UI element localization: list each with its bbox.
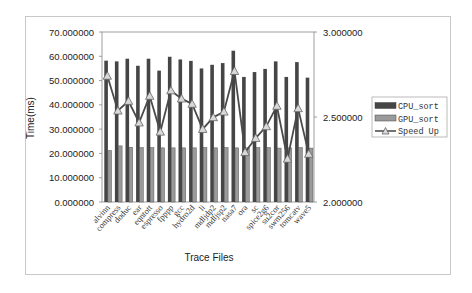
gpu-sort-bar [119, 146, 123, 202]
cpu-sort-bar [179, 59, 183, 202]
y2-tick-label: 2.000000 [323, 197, 363, 208]
legend: CPU_sortGPU_sortSpeed Up [372, 97, 447, 137]
gpu-sort-bar [278, 148, 282, 202]
plot-border [102, 32, 314, 202]
cpu-sort-bar [200, 68, 204, 202]
cpu-sort-bar [126, 59, 130, 202]
legend-swatch-icon [375, 115, 396, 121]
cpu-sort-bar [115, 61, 119, 202]
y-tick-label: 60.000000 [49, 51, 94, 62]
legend-label: Speed Up [398, 127, 439, 137]
cpu-sort-bar [295, 62, 299, 202]
gpu-sort-bar [140, 148, 144, 202]
y-tick-label: 40.000000 [49, 99, 94, 110]
x-axis-category-labels: alvinncompressdoduceareqntottespressofpp… [90, 202, 313, 233]
gpu-sort-bar [108, 151, 112, 202]
x-axis-title: Trace Files [184, 252, 233, 263]
legend-label: GPU_sort [398, 115, 439, 125]
right-y-axis: 2.0000002.5000003.000000 [314, 27, 363, 208]
y-tick-label: 50.000000 [49, 75, 94, 86]
cpu-sort-bar [157, 71, 161, 202]
gpu-sort-bar [246, 148, 250, 202]
y2-tick-label: 3.000000 [323, 27, 363, 38]
gpu-sort-bar [225, 148, 229, 202]
gpu-sort-bar [235, 148, 239, 202]
gpu-sort-bar [182, 148, 186, 202]
gpu-sort-bar [267, 148, 271, 202]
legend-label: CPU_sort [398, 102, 439, 112]
gpu-sort-bar [193, 148, 197, 202]
gpu-sort-bar [299, 148, 303, 202]
gpu-sort-bar [150, 148, 154, 202]
legend-swatch-icon [375, 103, 396, 109]
gpu-sort-bar [129, 147, 133, 202]
cpu-sort-bar [274, 61, 278, 202]
cpu-sort-bar [104, 61, 108, 202]
cpu-sort-bar [168, 57, 172, 202]
combo-chart: 0.00000010.00000020.00000030.00000040.00… [0, 0, 472, 293]
gpu-sort-bar [203, 148, 207, 202]
y-tick-label: 20.000000 [49, 148, 94, 159]
plot-area [102, 32, 314, 202]
cpu-sort-bar [189, 61, 193, 202]
y-tick-label: 70.000000 [49, 27, 94, 38]
gpu-sort-bar [172, 148, 176, 202]
cpu-sort-bar [263, 69, 267, 202]
y2-tick-label: 2.500000 [323, 112, 363, 123]
y-tick-label: 0.000000 [54, 197, 94, 208]
x-category-label: ora [235, 202, 250, 217]
cpu-sort-bar [136, 66, 140, 202]
cpu-sort-bar [221, 63, 225, 202]
left-y-axis: 0.00000010.00000020.00000030.00000040.00… [49, 27, 102, 208]
cpu-sort-bar [147, 59, 151, 202]
gpu-sort-bar [161, 148, 165, 202]
cpu-sort-bar [285, 77, 289, 202]
y-tick-label: 30.000000 [49, 124, 94, 135]
cpu-sort-bar [210, 65, 214, 202]
gpu-sort-bar [214, 148, 218, 202]
y-axis-title: Time(ms) [25, 97, 36, 139]
gpu-sort-bar [256, 148, 260, 202]
y-tick-label: 10.000000 [49, 172, 94, 183]
